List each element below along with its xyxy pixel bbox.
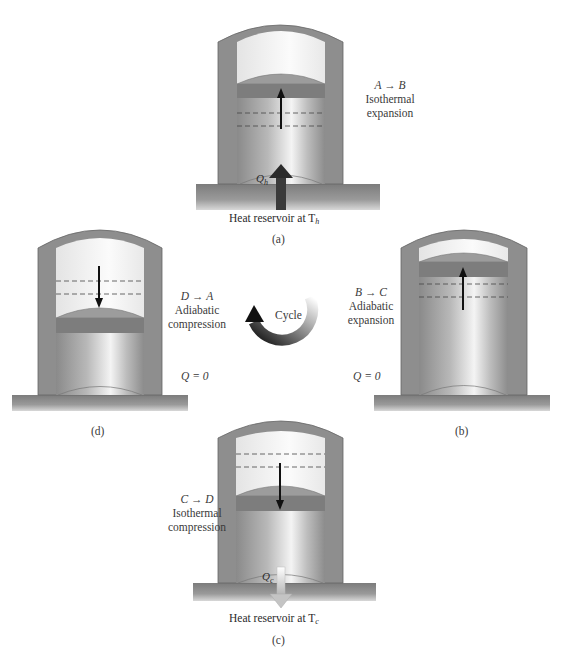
carnot-diagram bbox=[0, 0, 565, 655]
caption-a: (a) bbox=[272, 233, 285, 245]
heat-qh-label: Qh bbox=[256, 172, 268, 187]
caption-b: (b) bbox=[455, 425, 468, 437]
process-type-c-2: compression bbox=[162, 520, 232, 534]
process-ab: A → B bbox=[360, 78, 420, 92]
process-label-b: B → C Adiabatic expansion bbox=[338, 285, 404, 327]
q-zero-b: Q = 0 bbox=[353, 369, 381, 383]
caption-d: (d) bbox=[91, 425, 104, 437]
process-label-d: D → A Adiabatic compression bbox=[162, 289, 232, 331]
reservoir-label-cold: Heat reservoir at Tc bbox=[229, 612, 319, 626]
panel-a bbox=[196, 25, 380, 210]
process-cd: C → D bbox=[162, 492, 232, 506]
process-bc: B → C bbox=[338, 285, 404, 299]
cycle-label: Cycle bbox=[275, 308, 302, 322]
process-type-a-2: expansion bbox=[360, 106, 420, 120]
process-type-a-1: Isothermal bbox=[360, 92, 420, 106]
process-type-b-2: expansion bbox=[338, 313, 404, 327]
process-label-a: A → B Isothermal expansion bbox=[360, 78, 420, 120]
heat-qc-label: Qc bbox=[262, 570, 274, 585]
reservoir-label-hot: Heat reservoir at Th bbox=[229, 212, 319, 226]
process-type-d-2: compression bbox=[162, 317, 232, 331]
process-type-c-1: Isothermal bbox=[162, 506, 232, 520]
caption-c: (c) bbox=[272, 634, 285, 646]
process-type-d-1: Adiabatic bbox=[162, 303, 232, 317]
process-type-b-1: Adiabatic bbox=[338, 299, 404, 313]
heat-reservoir-hot bbox=[196, 184, 380, 210]
process-da: D → A bbox=[162, 289, 232, 303]
q-zero-d: Q = 0 bbox=[181, 369, 209, 383]
process-label-c: C → D Isothermal compression bbox=[162, 492, 232, 534]
